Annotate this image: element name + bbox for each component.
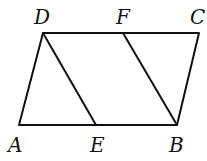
label-A: A — [6, 133, 22, 157]
segment-DE — [43, 33, 96, 125]
parallelogram-ABCD — [19, 33, 199, 125]
label-E: E — [89, 133, 105, 157]
segment-FB — [123, 33, 177, 125]
label-B: B — [168, 133, 184, 157]
label-F: F — [115, 5, 131, 29]
diagram-svg: D F C A E B — [0, 0, 207, 161]
label-C: C — [190, 5, 205, 29]
geometry-diagram: D F C A E B — [0, 0, 207, 161]
label-D: D — [33, 5, 50, 29]
